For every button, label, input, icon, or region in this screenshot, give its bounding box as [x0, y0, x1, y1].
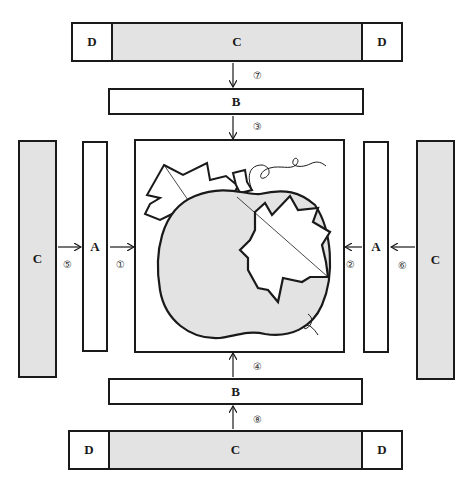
step-label-3: ③ — [253, 122, 262, 132]
step-label-8: ⑧ — [253, 415, 262, 425]
step-label-1: ① — [116, 260, 125, 270]
step-label-6: ⑥ — [398, 261, 407, 271]
center-block-and-arrows — [0, 0, 474, 492]
step-label-7: ⑦ — [253, 71, 262, 81]
step-label-5: ⑤ — [63, 260, 72, 270]
step-label-2: ② — [346, 260, 355, 270]
step-label-4: ④ — [253, 362, 262, 372]
